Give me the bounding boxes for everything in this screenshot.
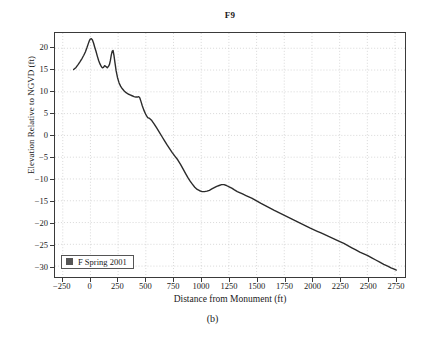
y-axis-ticks: 20151050−5−10−15−20−25−30 — [0, 32, 48, 278]
y-tick-label: 0 — [2, 130, 48, 140]
chart-title: F9 — [54, 10, 406, 20]
plot-area: F Spring 2001 — [54, 32, 406, 278]
y-tick-label: 15 — [2, 64, 48, 74]
series-layer — [55, 33, 405, 277]
legend: F Spring 2001 — [61, 255, 134, 270]
y-tick-label: −20 — [2, 218, 48, 228]
y-tick-label: −10 — [2, 174, 48, 184]
series-line — [74, 39, 397, 270]
y-tick-label: 5 — [2, 108, 48, 118]
legend-label-f-spring-2001: F Spring 2001 — [78, 258, 127, 267]
x-axis-ticks: −250025050075010001250150017502000225025… — [54, 281, 406, 295]
figure-caption: (b) — [0, 313, 425, 324]
y-tick-label: 20 — [2, 42, 48, 52]
x-tick-label: 2750 — [371, 281, 421, 291]
y-tick-label: −15 — [2, 196, 48, 206]
figure-panel: F9 F Spring 2001 20151050−5−10−15−20−25−… — [0, 0, 425, 345]
legend-swatch-f-spring-2001 — [66, 258, 73, 265]
y-tick-label: −5 — [2, 152, 48, 162]
y-tick-label: 10 — [2, 86, 48, 96]
y-axis-title: Elevation Relative to NGVD (ft) — [26, 0, 36, 240]
y-tick-label: −30 — [2, 262, 48, 272]
x-axis-title: Distance from Monument (ft) — [54, 294, 406, 304]
y-tick-label: −25 — [2, 240, 48, 250]
